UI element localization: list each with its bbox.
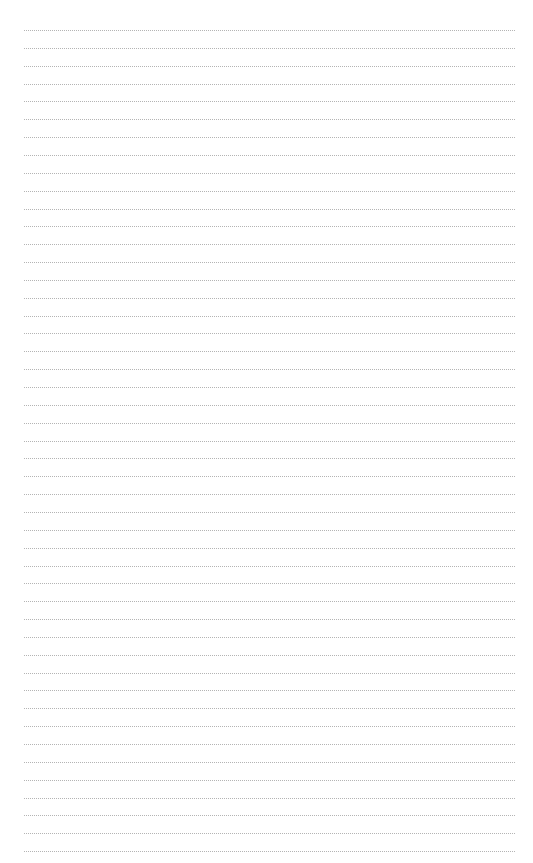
ruled-line [24, 530, 515, 531]
ruled-line [24, 280, 515, 281]
ruled-line [24, 673, 515, 674]
ruled-line [24, 619, 515, 620]
ruled-line [24, 48, 515, 49]
ruled-line [24, 851, 515, 852]
ruled-line [24, 155, 515, 156]
ruled-line [24, 84, 515, 85]
ruled-line [24, 66, 515, 67]
ruled-line [24, 494, 515, 495]
ruled-line [24, 369, 515, 370]
ruled-line [24, 351, 515, 352]
ruled-line [24, 637, 515, 638]
ruled-line [24, 476, 515, 477]
ruled-line [24, 191, 515, 192]
ruled-line [24, 387, 515, 388]
ruled-line [24, 655, 515, 656]
ruled-line [24, 137, 515, 138]
ruled-line [24, 316, 515, 317]
ruled-line [24, 815, 515, 816]
ruled-line [24, 601, 515, 602]
ruled-line [24, 30, 515, 31]
ruled-line [24, 726, 515, 727]
ruled-line [24, 209, 515, 210]
ruled-line [24, 566, 515, 567]
ruled-line [24, 708, 515, 709]
ruled-line [24, 744, 515, 745]
ruled-line [24, 173, 515, 174]
ruled-line [24, 458, 515, 459]
ruled-line [24, 333, 515, 334]
ruled-line [24, 441, 515, 442]
ruled-line [24, 244, 515, 245]
ruled-line [24, 583, 515, 584]
ruled-line [24, 780, 515, 781]
ruled-line [24, 798, 515, 799]
ruled-line [24, 512, 515, 513]
ruled-line [24, 119, 515, 120]
ruled-line [24, 423, 515, 424]
ruled-line [24, 405, 515, 406]
ruled-line [24, 262, 515, 263]
ruled-line [24, 101, 515, 102]
ruled-line [24, 690, 515, 691]
ruled-line [24, 548, 515, 549]
ruled-line [24, 298, 515, 299]
ruled-line [24, 833, 515, 834]
lined-paper-page [0, 0, 533, 863]
ruled-line [24, 226, 515, 227]
ruled-line [24, 762, 515, 763]
